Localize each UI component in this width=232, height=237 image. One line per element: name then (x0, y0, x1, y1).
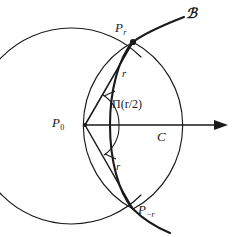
left-arc-path (0, 28, 141, 224)
curve-label-script-c: ℬ (186, 6, 197, 20)
vertex-dot-p-zero (83, 123, 87, 127)
vertex-dot-p-r (130, 39, 136, 45)
angle-of-parallelism-label: Π(r/2) (112, 98, 142, 110)
circle-label-c: C (157, 130, 166, 143)
segment-upper-r (85, 42, 133, 125)
point-label-p-minus-r: P−r (138, 203, 155, 216)
segment-length-label-lower: r (116, 161, 120, 172)
angle-tick-lower (105, 154, 116, 159)
point-label-p-zero: P0 (52, 116, 64, 129)
figure-canvas (0, 0, 232, 237)
axis-ray-arrowhead (214, 120, 228, 130)
segment-length-label-upper: r (122, 68, 126, 79)
point-label-p-r: Pr (115, 21, 126, 34)
hyperbolic-geometry-figure: ℬ Pr r Π(r/2) P0 C r P−r (0, 0, 232, 237)
